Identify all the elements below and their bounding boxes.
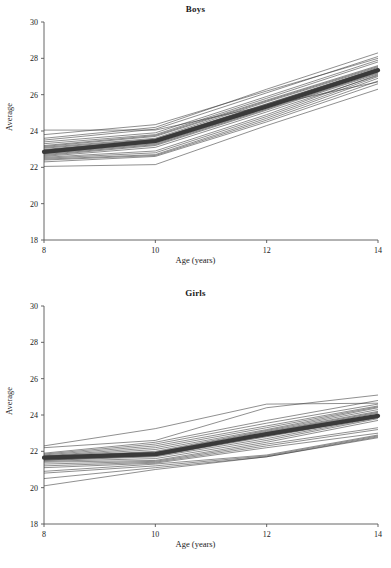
y-tick-label: 30: [30, 18, 38, 27]
y-tick-label: 22: [30, 447, 38, 456]
y-tick-label: 28: [30, 338, 38, 347]
series-line: [44, 411, 378, 457]
y-axis-title-girls: Average: [4, 376, 14, 426]
y-tick-label: 18: [30, 520, 38, 529]
x-tick-label: 12: [263, 246, 271, 255]
y-tick-label: 20: [30, 484, 38, 493]
plot-area-boys: 182022242628308101214: [0, 0, 391, 284]
y-tick-label: 26: [30, 375, 38, 384]
series-line: [44, 71, 378, 153]
x-axis-title-girls: Age (years): [0, 539, 391, 549]
plot-area-girls: 182022242628308101214: [0, 284, 391, 568]
y-tick-label: 20: [30, 200, 38, 209]
y-tick-label: 24: [30, 127, 38, 136]
y-tick-label: 28: [30, 54, 38, 63]
x-tick-label: 14: [374, 530, 382, 539]
y-tick-label: 22: [30, 163, 38, 172]
chart-panel-girls: Girls 182022242628308101214 Age (years) …: [0, 284, 391, 568]
y-tick-label: 18: [30, 236, 38, 245]
y-tick-label: 24: [30, 411, 38, 420]
y-tick-label: 30: [30, 302, 38, 311]
x-tick-label: 8: [42, 246, 46, 255]
chart-panel-boys: Boys 182022242628308101214 Age (years) A…: [0, 0, 391, 284]
x-axis-title-boys: Age (years): [0, 255, 391, 265]
x-tick-label: 12: [263, 530, 271, 539]
x-tick-label: 14: [374, 246, 382, 255]
y-axis-title-boys: Average: [4, 92, 14, 142]
x-tick-label: 10: [151, 530, 159, 539]
figure-panel-plots: Boys 182022242628308101214 Age (years) A…: [0, 0, 391, 568]
series-line: [44, 62, 378, 144]
x-tick-label: 10: [151, 246, 159, 255]
y-tick-label: 26: [30, 91, 38, 100]
x-tick-label: 8: [42, 530, 46, 539]
